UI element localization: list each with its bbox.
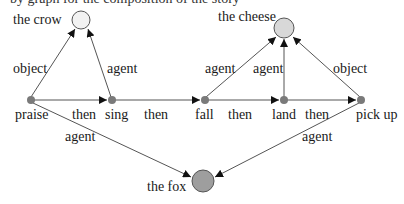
edge-label-then-2: then <box>144 107 168 122</box>
label-praise: praise <box>15 107 48 122</box>
event-node-land <box>280 96 288 104</box>
event-node-sing <box>108 96 116 104</box>
edge-label-agent-land-cheese: agent <box>253 61 283 76</box>
event-node-praise <box>27 96 35 104</box>
label-pickup: pick up <box>356 107 398 122</box>
label-the-cheese: the cheese <box>218 9 276 24</box>
entity-node-crow <box>72 11 90 29</box>
label-the-crow: the crow <box>13 12 62 27</box>
edge-label-object-crow: object <box>13 61 47 76</box>
label-sing: sing <box>105 107 128 122</box>
edge-label-object-cheese: object <box>333 61 367 76</box>
story-graph: the crow the cheese the fox praise sing … <box>0 0 404 204</box>
event-node-fall <box>201 96 209 104</box>
entity-node-cheese <box>274 18 294 38</box>
edge-label-agent-crow: agent <box>107 61 137 76</box>
label-the-fox: the fox <box>147 179 186 194</box>
label-land: land <box>272 107 296 122</box>
edge-label-agent-praise-fox: agent <box>65 129 95 144</box>
entity-node-fox <box>192 170 214 192</box>
edge-label-then-1: then <box>72 107 96 122</box>
edge-label-then-4: then <box>305 107 329 122</box>
label-fall: fall <box>195 107 214 122</box>
edge-label-agent-fall-cheese: agent <box>205 61 235 76</box>
event-node-pickup <box>357 96 365 104</box>
edge-label-then-3: then <box>228 107 252 122</box>
edge-label-agent-pickup-fox: agent <box>302 129 332 144</box>
